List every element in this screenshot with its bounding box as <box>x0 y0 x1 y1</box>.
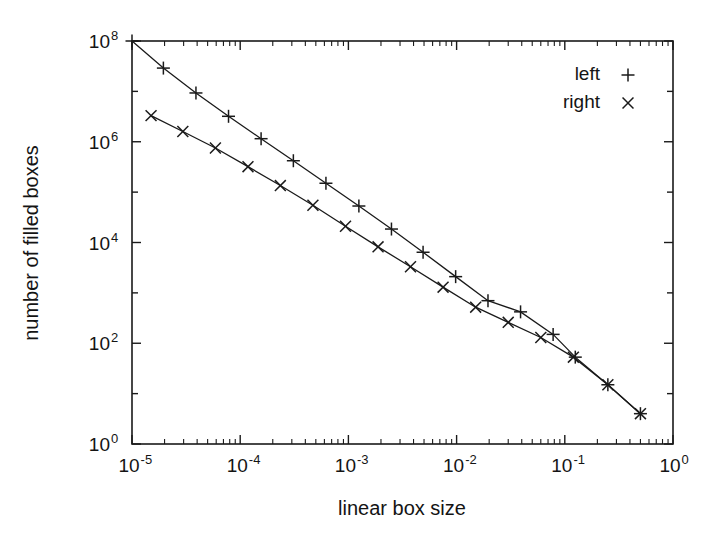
series-right <box>146 110 646 419</box>
cross-marker <box>503 317 514 328</box>
cross-marker <box>275 180 286 191</box>
x-tick-label: 10-4 <box>227 452 261 476</box>
svg-text:-4: -4 <box>249 452 261 467</box>
cross-marker <box>470 302 481 313</box>
chart-figure: 10-510-410-310-210-1100 100102104106108 … <box>0 0 722 540</box>
cross-marker <box>438 282 449 293</box>
cross-marker <box>340 221 351 232</box>
plus-marker <box>222 110 235 123</box>
legend-label: right <box>563 91 601 112</box>
plus-marker <box>481 294 494 307</box>
svg-text:10: 10 <box>335 455 356 476</box>
svg-text:6: 6 <box>111 129 118 144</box>
plus-marker <box>287 154 300 167</box>
svg-text:10: 10 <box>89 132 110 153</box>
plus-marker <box>449 270 462 283</box>
plus-marker <box>189 86 202 99</box>
plus-marker <box>255 132 268 145</box>
svg-text:10: 10 <box>89 31 110 52</box>
svg-text:10: 10 <box>89 233 110 254</box>
svg-text:4: 4 <box>111 230 118 245</box>
cross-marker <box>243 161 254 172</box>
svg-text:10: 10 <box>89 333 110 354</box>
plus-marker <box>417 246 430 259</box>
svg-text:-3: -3 <box>357 452 369 467</box>
cross-marker <box>623 98 634 109</box>
svg-text:0: 0 <box>111 431 118 446</box>
cross-marker <box>373 241 384 252</box>
x-tick-label: 10-5 <box>118 452 152 476</box>
x-tick-label: 10-1 <box>551 452 585 476</box>
svg-text:10: 10 <box>551 455 572 476</box>
plus-marker <box>622 69 635 82</box>
legend-label: left <box>575 63 601 84</box>
svg-text:2: 2 <box>111 330 118 345</box>
plus-marker <box>514 305 527 318</box>
svg-text:8: 8 <box>111 28 118 43</box>
plus-marker <box>319 177 332 190</box>
y-axis-title: number of filled boxes <box>20 145 42 341</box>
cross-marker <box>210 143 221 154</box>
cross-marker <box>177 126 188 137</box>
svg-text:10: 10 <box>659 455 680 476</box>
x-tick-label: 10-3 <box>335 452 369 476</box>
cross-marker <box>146 110 157 121</box>
cross-marker <box>535 332 546 343</box>
svg-text:0: 0 <box>682 452 689 467</box>
svg-text:-5: -5 <box>141 452 153 467</box>
cross-marker <box>405 261 416 272</box>
log-log-plot: 10-510-410-310-210-1100 100102104106108 … <box>0 0 722 540</box>
svg-text:10: 10 <box>443 455 464 476</box>
y-tick-label: 104 <box>89 230 118 254</box>
x-tick-label: 100 <box>659 452 688 476</box>
y-tick-label: 108 <box>89 28 118 52</box>
plus-marker <box>385 223 398 236</box>
y-tick-label: 102 <box>89 330 118 354</box>
x-axis-title: linear box size <box>338 497 466 519</box>
svg-text:10: 10 <box>89 434 110 455</box>
y-tick-labels: 100102104106108 <box>89 28 118 455</box>
legend-entry-left[interactable]: left <box>575 63 635 84</box>
y-tick-label: 100 <box>89 431 118 455</box>
chart-legend[interactable]: leftright <box>563 63 634 112</box>
plus-marker <box>352 200 365 213</box>
x-tick-labels: 10-510-410-310-210-1100 <box>118 452 688 476</box>
x-tick-label: 10-2 <box>443 452 477 476</box>
cross-marker <box>307 200 318 211</box>
legend-entry-right[interactable]: right <box>563 91 633 112</box>
svg-text:10: 10 <box>227 455 248 476</box>
svg-text:10: 10 <box>118 455 139 476</box>
svg-text:-1: -1 <box>573 452 585 467</box>
y-tick-label: 106 <box>89 129 118 153</box>
svg-text:-2: -2 <box>465 452 477 467</box>
